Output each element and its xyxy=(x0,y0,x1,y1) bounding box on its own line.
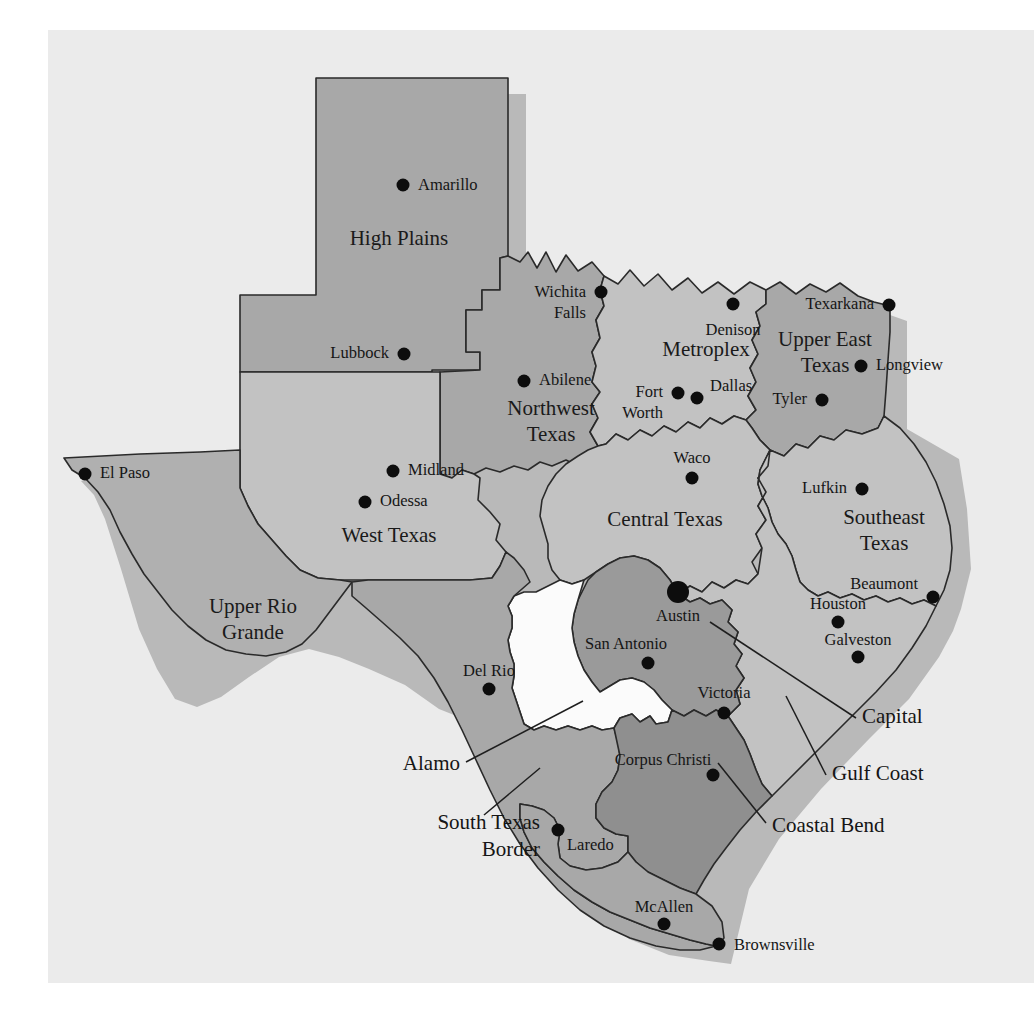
city-label-mcallen: McAllen xyxy=(635,897,694,916)
texas-map-svg: High Plains NorthwestTexas Metroplex Upp… xyxy=(0,0,1034,1025)
city-dot-tyler[interactable] xyxy=(816,394,829,407)
city-label-brownsville: Brownsville xyxy=(734,935,815,954)
city-dot-waco[interactable] xyxy=(686,472,699,485)
city-dot-houston[interactable] xyxy=(832,616,845,629)
city-dot-odessa[interactable] xyxy=(359,496,372,509)
city-dot-galveston[interactable] xyxy=(852,651,865,664)
city-dot-denison[interactable] xyxy=(727,298,740,311)
city-dot-midland[interactable] xyxy=(387,465,400,478)
city-dot-lubbock[interactable] xyxy=(398,348,411,361)
city-dot-lufkin[interactable] xyxy=(856,483,869,496)
city-label-texarkana: Texarkana xyxy=(806,294,875,313)
city-label-galveston: Galveston xyxy=(825,630,892,649)
city-dot-el-paso[interactable] xyxy=(79,468,92,481)
callout-label-gulf-coast: Gulf Coast xyxy=(832,761,924,785)
callout-label-capital: Capital xyxy=(862,704,923,728)
city-dot-abilene[interactable] xyxy=(518,375,531,388)
city-dot-longview[interactable] xyxy=(855,360,868,373)
city-label-denison: Denison xyxy=(706,320,761,339)
texas-regions-map-figure: High Plains NorthwestTexas Metroplex Upp… xyxy=(0,0,1034,1025)
city-label-midland: Midland xyxy=(408,460,465,479)
city-label-laredo: Laredo xyxy=(567,835,614,854)
city-dot-austin[interactable] xyxy=(667,581,689,603)
city-dot-laredo[interactable] xyxy=(552,824,565,837)
city-dot-victoria[interactable] xyxy=(718,707,731,720)
city-dot-corpus-christi[interactable] xyxy=(707,769,720,782)
city-label-dallas: Dallas xyxy=(710,376,752,395)
city-dot-fort-worth[interactable] xyxy=(672,387,685,400)
city-label-odessa: Odessa xyxy=(380,491,428,510)
city-label-waco: Waco xyxy=(673,448,710,467)
city-label-lubbock: Lubbock xyxy=(330,343,389,362)
city-label-victoria: Victoria xyxy=(697,683,751,702)
city-dot-mcallen[interactable] xyxy=(658,918,671,931)
city-dot-del-rio[interactable] xyxy=(483,683,496,696)
city-label-amarillo: Amarillo xyxy=(418,175,478,194)
city-dot-dallas[interactable] xyxy=(691,392,704,405)
city-label-lufkin: Lufkin xyxy=(802,478,847,497)
city-label-corpus-christi: Corpus Christi xyxy=(615,750,712,769)
city-dot-texarkana[interactable] xyxy=(883,299,896,312)
city-label-houston: Houston xyxy=(810,594,866,613)
city-dot-brownsville[interactable] xyxy=(713,938,726,951)
city-dot-wichita-falls[interactable] xyxy=(595,286,608,299)
city-label-tyler: Tyler xyxy=(772,389,807,408)
city-label-el-paso: El Paso xyxy=(100,463,150,482)
city-label-beaumont: Beaumont xyxy=(850,574,918,593)
callout-label-alamo: Alamo xyxy=(403,751,460,775)
region-label-high-plains: High Plains xyxy=(350,226,449,250)
city-label-san-antonio: San Antonio xyxy=(585,634,667,653)
region-label-central-texas: Central Texas xyxy=(607,507,722,531)
city-label-del-rio: Del Rio xyxy=(463,661,515,680)
city-dot-san-antonio[interactable] xyxy=(642,657,655,670)
callout-label-coastal-bend: Coastal Bend xyxy=(772,813,885,837)
city-dot-beaumont[interactable] xyxy=(927,591,940,604)
region-label-metroplex: Metroplex xyxy=(662,337,750,361)
city-label-abilene: Abilene xyxy=(539,370,591,389)
city-dot-amarillo[interactable] xyxy=(397,179,410,192)
city-label-austin: Austin xyxy=(656,606,700,625)
region-label-west-texas: West Texas xyxy=(341,523,436,547)
city-label-longview: Longview xyxy=(876,355,943,374)
